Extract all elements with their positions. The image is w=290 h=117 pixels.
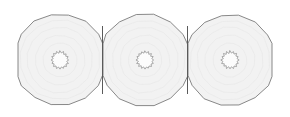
middle-core-icon — [136, 51, 154, 69]
figure-canvas — [0, 0, 290, 117]
cell-diagram-svg — [0, 0, 290, 117]
left-core-icon — [51, 51, 69, 69]
right-core-icon — [221, 51, 239, 69]
